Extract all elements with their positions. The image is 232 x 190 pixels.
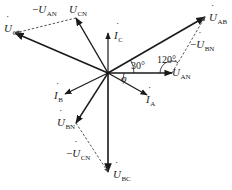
label-i-a: IA xyxy=(146,94,155,108)
label-u-cn: UCN xyxy=(69,4,87,18)
vector-u-ca xyxy=(15,33,108,73)
vector-u-cn xyxy=(76,18,108,73)
label-neg-u-bn: −UBN xyxy=(190,39,214,53)
label-u-bc: UBC xyxy=(113,169,131,183)
label-i-c: IC xyxy=(114,30,123,44)
label-u-ca: UCA xyxy=(4,23,22,37)
label-u-bn: UBN xyxy=(57,117,75,131)
angle-phi-label: φ xyxy=(121,73,127,84)
origin-point xyxy=(106,71,110,75)
label-u-ab: UAB xyxy=(209,12,227,26)
dashed-neg-u-an xyxy=(15,18,76,33)
label-neg-u-an: −UAN xyxy=(32,4,57,18)
label-neg-u-cn: −UCN xyxy=(66,148,90,162)
phasor-vectors xyxy=(15,17,205,172)
angle-120-label: 120° xyxy=(157,54,176,65)
angle-30-label: 30° xyxy=(131,60,145,71)
label-i-b: IB xyxy=(54,90,63,104)
label-u-an: UAN xyxy=(172,67,191,81)
vector-i-a xyxy=(108,73,147,95)
dashed-construction-vectors xyxy=(15,17,205,172)
